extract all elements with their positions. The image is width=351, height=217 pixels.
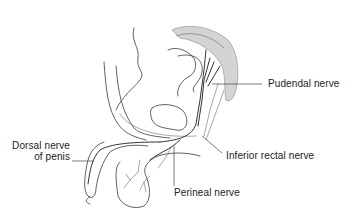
pelvis-illustration: [0, 0, 351, 217]
anatomy-figure: Pudendal nerve Dorsal nerve of penis Inf…: [0, 0, 351, 217]
label-dorsal-nerve-line1: Dorsal nerve: [12, 140, 70, 151]
leader-inferior-rectal: [202, 136, 222, 153]
label-dorsal-nerve-line2: of penis: [12, 151, 70, 162]
label-inferior-rectal-nerve: Inferior rectal nerve: [226, 150, 314, 161]
label-pudendal-nerve: Pudendal nerve: [268, 78, 339, 89]
label-perineal-nerve: Perineal nerve: [174, 187, 240, 198]
